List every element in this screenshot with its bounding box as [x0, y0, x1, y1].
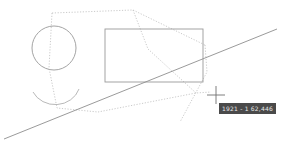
- coordinate-tooltip: 1921 - 1 62,446: [219, 103, 276, 114]
- drawing-canvas-app[interactable]: 1921 - 1 62,446: [0, 0, 282, 155]
- diagonal-line-shape[interactable]: [4, 29, 277, 139]
- dotted-path-v-right: [133, 10, 148, 49]
- crosshair-cursor-icon: [207, 86, 225, 104]
- circle-shape[interactable]: [32, 26, 76, 70]
- rectangle-shape[interactable]: [105, 29, 203, 82]
- vector-drawing-surface[interactable]: [0, 0, 282, 155]
- dotted-path-upper: [52, 10, 205, 45]
- dotted-path-lower: [98, 92, 211, 112]
